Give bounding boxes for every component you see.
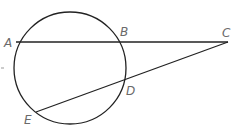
label-c: C: [222, 26, 231, 40]
label-a: A: [3, 36, 12, 50]
label-e: E: [24, 113, 32, 127]
secant-ec: [36, 42, 228, 112]
label-d: D: [126, 84, 135, 98]
diagram-svg: A B C D E: [0, 0, 239, 127]
label-b: B: [120, 25, 128, 39]
geometry-diagram: A B C D E: [0, 0, 239, 127]
circle: [14, 12, 126, 124]
